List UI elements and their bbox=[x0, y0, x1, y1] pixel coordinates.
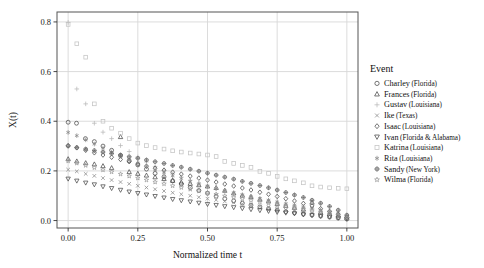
y-tick-label: 0.8 bbox=[40, 17, 51, 27]
legend-item-ike[interactable]: Ike(Texas) bbox=[375, 111, 418, 120]
x-axis-label: Normalized time t bbox=[173, 250, 242, 260]
legend-item-wilma[interactable]: Wilma(Florida) bbox=[375, 175, 434, 184]
legend-item-gustav[interactable]: Gustav(Louisiana) bbox=[375, 100, 443, 109]
legend-item-ivan[interactable]: Ivan(Florida & Alabama) bbox=[375, 133, 461, 142]
legend-item-frances[interactable]: Frances(Florida) bbox=[375, 90, 437, 99]
legend-item-region: (Louisiana) bbox=[409, 101, 443, 109]
legend-item-region: (Louisiana) bbox=[410, 144, 444, 152]
legend-item-region: (Louisiana) bbox=[399, 155, 433, 163]
legend-item-label: Charley(Florida) bbox=[384, 79, 438, 88]
legend-item-region: (Florida) bbox=[411, 91, 437, 99]
legend-marker-triangle-up-icon bbox=[375, 92, 380, 96]
plot-svg: 0.000.250.500.751.000.00.20.40.60.8Norma… bbox=[0, 0, 484, 268]
legend-item-region: (Texas) bbox=[396, 112, 418, 120]
legend-item-region: (New York) bbox=[406, 166, 441, 174]
legend-item-label: Frances(Florida) bbox=[384, 90, 437, 99]
legend-item-label: Ike(Texas) bbox=[384, 111, 418, 120]
legend-item-label: Sandy(New York) bbox=[384, 165, 441, 174]
legend-marker-square-icon bbox=[375, 146, 379, 150]
x-tick-label: 0.50 bbox=[200, 233, 215, 243]
x-tick-label: 0.25 bbox=[130, 233, 145, 243]
y-tick-label: 0.6 bbox=[40, 67, 51, 77]
legend-item-label: Isaac(Louisiana) bbox=[384, 122, 436, 131]
legend-item-region: (Louisiana) bbox=[402, 123, 436, 131]
x-tick-label: 0.75 bbox=[270, 233, 285, 243]
x-tick-label: 1.00 bbox=[339, 233, 354, 243]
legend-item-label: Rita(Louisiana) bbox=[384, 154, 433, 163]
y-tick-label: 0.0 bbox=[40, 216, 51, 226]
y-tick-label: 0.2 bbox=[40, 166, 51, 176]
y-axis-label-group: X(t) bbox=[8, 112, 19, 128]
legend-item-region: (Florida & Alabama) bbox=[400, 134, 461, 142]
legend-item-sandy[interactable]: Sandy(New York) bbox=[375, 165, 441, 174]
scatter-chart-figure: 0.000.250.500.751.000.00.20.40.60.8Norma… bbox=[0, 0, 484, 268]
legend-item-katrina[interactable]: Katrina(Louisiana) bbox=[375, 143, 444, 152]
legend-item-charley[interactable]: Charley(Florida) bbox=[375, 79, 438, 88]
legend-item-isaac[interactable]: Isaac(Louisiana) bbox=[375, 122, 436, 131]
legend-item-label: Gustav(Louisiana) bbox=[384, 100, 442, 109]
y-tick-label: 0.4 bbox=[40, 116, 51, 126]
legend: EventCharley(Florida)Frances(Florida)Gus… bbox=[370, 63, 461, 184]
legend-item-region: (Florida) bbox=[407, 176, 433, 184]
legend-item-region: (Florida) bbox=[411, 80, 437, 88]
legend-marker-star-icon bbox=[375, 177, 380, 182]
x-tick-label: 0.00 bbox=[61, 233, 76, 243]
legend-title: Event bbox=[370, 63, 394, 74]
legend-marker-triangle-down-icon bbox=[375, 135, 380, 139]
y-axis-label: X(t) bbox=[8, 112, 19, 128]
legend-marker-diamond-icon bbox=[375, 124, 379, 129]
legend-item-rita[interactable]: Rita(Louisiana) bbox=[375, 154, 433, 163]
legend-marker-circle-icon bbox=[375, 81, 379, 85]
legend-item-label: Wilma(Florida) bbox=[384, 175, 434, 184]
legend-item-label: Katrina(Louisiana) bbox=[384, 143, 444, 152]
legend-item-label: Ivan(Florida & Alabama) bbox=[384, 133, 461, 142]
